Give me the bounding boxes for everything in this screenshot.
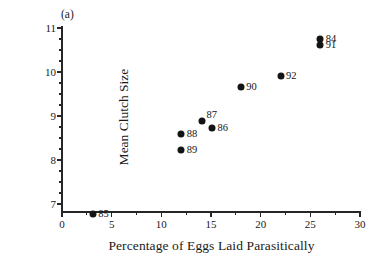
data-point-89: [178, 147, 185, 154]
x-tick-5: [111, 212, 112, 217]
x-tick-label-20: 20: [255, 219, 266, 230]
x-tick-label-0: 0: [59, 219, 65, 230]
y-axis-line: [61, 26, 63, 213]
x-tick-label-30: 30: [355, 219, 366, 230]
data-point-label-86: 86: [217, 123, 228, 134]
y-minor-tick: [59, 170, 62, 171]
y-tick-11: [57, 27, 62, 28]
data-point-90: [237, 84, 244, 91]
y-minor-tick: [59, 60, 62, 61]
x-minor-tick: [235, 212, 236, 215]
y-minor-tick: [59, 137, 62, 138]
data-point-86: [208, 124, 215, 131]
x-tick-15: [210, 212, 211, 217]
data-point-92: [277, 73, 284, 80]
panel-label: (a): [61, 8, 74, 20]
data-point-label-85: 85: [98, 208, 109, 219]
data-point-87: [199, 118, 206, 125]
data-point-label-89: 89: [187, 145, 198, 156]
y-tick-label-10: 10: [34, 67, 56, 78]
x-minor-tick: [335, 212, 336, 215]
y-minor-tick: [59, 38, 62, 39]
y-minor-tick: [59, 93, 62, 94]
y-tick-label-8: 8: [34, 155, 56, 166]
y-minor-tick: [59, 192, 62, 193]
y-axis-title: Mean Clutch Size: [114, 22, 134, 212]
scatter-plot-figure: (a) 051015202530 7891011 858988878690928…: [0, 0, 389, 266]
y-minor-tick: [59, 49, 62, 50]
x-tick-25: [310, 212, 311, 217]
data-point-label-91: 91: [326, 39, 337, 50]
x-tick-0: [61, 212, 62, 217]
y-tick-label-7: 7: [34, 199, 56, 210]
data-point-label-92: 92: [286, 71, 297, 82]
y-minor-tick: [59, 181, 62, 182]
x-minor-tick: [136, 212, 137, 215]
y-tick-7: [57, 203, 62, 204]
x-tick-20: [260, 212, 261, 217]
data-point-label-90: 90: [246, 82, 257, 93]
x-tick-label-5: 5: [109, 219, 115, 230]
y-tick-9: [57, 115, 62, 116]
x-tick-30: [359, 212, 360, 217]
y-tick-8: [57, 159, 62, 160]
y-minor-tick: [59, 126, 62, 127]
x-minor-tick: [186, 212, 187, 215]
y-tick-label-11: 11: [34, 23, 56, 34]
x-tick-label-25: 25: [305, 219, 316, 230]
x-tick-label-10: 10: [156, 219, 167, 230]
y-minor-tick: [59, 104, 62, 105]
x-minor-tick: [285, 212, 286, 215]
data-point-label-87: 87: [207, 110, 218, 121]
data-point-label-88: 88: [187, 128, 198, 139]
data-point-88: [178, 130, 185, 137]
x-tick-label-15: 15: [206, 219, 217, 230]
data-point-91: [317, 41, 324, 48]
y-minor-tick: [59, 148, 62, 149]
x-axis-title: Percentage of Eggs Laid Parasitically: [62, 238, 361, 254]
y-tick-label-9: 9: [34, 111, 56, 122]
x-minor-tick: [86, 212, 87, 215]
data-point-85: [89, 210, 96, 217]
x-tick-10: [161, 212, 162, 217]
y-tick-10: [57, 71, 62, 72]
y-minor-tick: [59, 82, 62, 83]
